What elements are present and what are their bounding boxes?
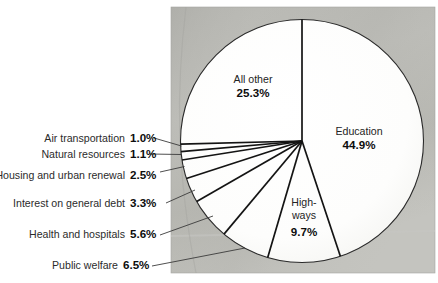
slice-label-highways-name-line1: High- — [291, 196, 317, 208]
slice-label-highways-value: 9.7% — [291, 225, 317, 238]
callout-value-air-transportation: 1.0% — [130, 131, 156, 144]
callout-label-interest-general-debt: Interest on general debt — [13, 197, 125, 209]
callout-label-housing-urban-renewal: Housing and urban renewal — [0, 169, 125, 181]
callout-value-health-hospitals: 5.6% — [130, 227, 156, 240]
callout-label-air-transportation: Air transportation — [44, 132, 125, 144]
slice-label-all-other-name: All other — [234, 73, 273, 85]
pie-chart-figure: All other 25.3% Education 44.9% High- wa… — [0, 0, 438, 283]
callout-label-natural-resources: Natural resources — [41, 148, 125, 160]
callout-value-natural-resources: 1.1% — [130, 147, 156, 160]
slice-label-education-value: 44.9% — [343, 138, 376, 151]
slice-label-education-name: Education — [335, 125, 382, 137]
slice-label-all-other-value: 25.3% — [237, 86, 270, 99]
slice-label-highways-name-line2: ways — [291, 209, 316, 221]
callout-value-housing-urban-renewal: 2.5% — [130, 168, 156, 181]
callout-value-public-welfare: 6.5% — [123, 258, 149, 271]
callout-value-interest-general-debt: 3.3% — [130, 196, 156, 209]
callout-label-public-welfare: Public welfare — [52, 259, 118, 271]
callout-label-health-hospitals: Health and hospitals — [29, 228, 125, 240]
pie-chart-svg: All other 25.3% Education 44.9% High- wa… — [0, 0, 438, 283]
